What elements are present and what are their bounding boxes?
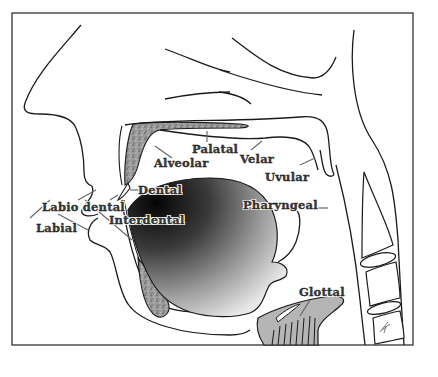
label-alveolar: Alveolar	[154, 157, 208, 169]
nose-profile	[24, 25, 92, 186]
diagram-drawing	[0, 0, 438, 377]
vertebra-2	[366, 262, 400, 306]
pointer-uvular	[300, 158, 315, 165]
pointer-velar	[251, 141, 262, 150]
upper-incisor	[118, 183, 130, 200]
nasal-turbinate-2	[220, 70, 322, 95]
vertebra-1	[362, 172, 393, 258]
nasal-turbinate-3	[219, 92, 251, 104]
label-glottal: Glottal	[299, 286, 345, 298]
nasal-line-1	[165, 49, 230, 72]
nasal-line-2	[165, 92, 230, 99]
vertebra-3	[373, 311, 404, 344]
upper-gum	[119, 126, 122, 185]
pharynx-front	[336, 165, 365, 345]
label-labiodental: Labio dental	[42, 201, 125, 213]
pointer-labiodental-1	[78, 190, 96, 200]
label-velar: Velar	[240, 153, 274, 165]
larynx	[257, 296, 343, 345]
label-palatal: Palatal	[192, 143, 238, 155]
label-uvular: Uvular	[265, 171, 309, 183]
vocal-tract-diagram: Palatal Alveolar Velar Uvular Dental Lab…	[0, 0, 438, 377]
label-labial: Labial	[36, 222, 77, 234]
epiglottis	[278, 210, 300, 262]
label-pharyngeal: Pharyngeal	[243, 199, 318, 211]
nasal-turbinate-1	[232, 38, 336, 78]
label-interdental: Interdental	[109, 214, 184, 226]
label-dental: Dental	[138, 184, 182, 196]
